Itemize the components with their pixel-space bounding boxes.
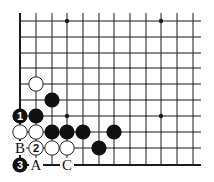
black-stone-move-3: 3	[12, 157, 27, 172]
black-stone	[59, 124, 74, 139]
white-stone	[13, 125, 27, 139]
black-stone-icon	[44, 92, 59, 107]
black-stone-icon	[91, 140, 106, 155]
star-point-icon	[159, 19, 163, 23]
white-stone-icon	[29, 125, 43, 139]
black-stone-icon	[44, 124, 59, 139]
black-stone-icon	[59, 124, 74, 139]
black-stone-icon	[106, 124, 121, 139]
black-stone-move-1: 1	[12, 108, 27, 123]
white-stone-icon	[29, 77, 43, 91]
black-stone	[44, 92, 59, 107]
white-stone-move-2: 2	[29, 141, 43, 155]
star-point-icon	[159, 114, 163, 118]
black-stone	[91, 140, 106, 155]
black-stone-icon	[75, 124, 90, 139]
move-number: 2	[33, 142, 39, 154]
move-number: 3	[17, 159, 23, 171]
move-number: 1	[17, 110, 23, 122]
black-stone	[28, 108, 43, 123]
star-point-icon	[65, 19, 69, 23]
white-stone-icon	[60, 141, 74, 155]
black-stone	[106, 124, 121, 139]
white-stone	[29, 125, 43, 139]
white-stone	[60, 141, 74, 155]
point-label-B: B	[15, 140, 25, 156]
black-stone-icon	[28, 108, 43, 123]
point-label-C: C	[62, 157, 72, 173]
white-stone	[45, 141, 59, 155]
black-stone	[75, 124, 90, 139]
point-label-A: A	[31, 157, 42, 173]
star-point-icon	[65, 114, 69, 118]
white-stone	[29, 77, 43, 91]
black-stone	[44, 124, 59, 139]
white-stone-icon	[13, 125, 27, 139]
white-stone-icon	[45, 141, 59, 155]
go-board-diagram: 123 BAC	[0, 0, 214, 182]
